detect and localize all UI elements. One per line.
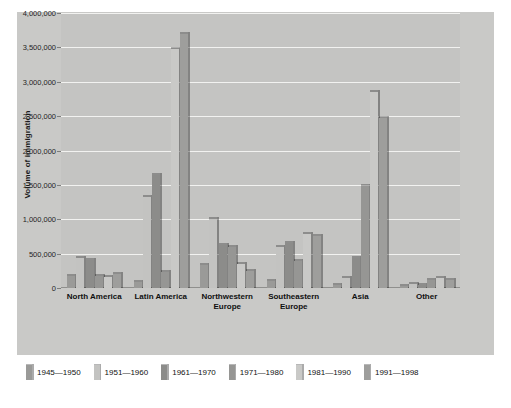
bar[interactable] [246,271,254,288]
bar-top-face [246,269,254,271]
bar-top-face [209,217,217,219]
bar[interactable] [219,245,227,288]
bar-slot [228,247,236,288]
bar-slot [418,285,426,288]
category-label: Northwestern Europe [194,292,260,312]
bar[interactable] [294,261,302,289]
bar-slot [379,118,387,289]
bar-slot [76,258,84,288]
legend-swatch [364,365,370,380]
bar[interactable] [67,276,75,288]
bar[interactable] [379,118,387,289]
bar[interactable] [446,280,454,288]
bar-slot [200,265,208,288]
legend-swatch [296,365,302,380]
bar[interactable] [237,264,245,288]
bar[interactable] [143,197,151,288]
legend-item[interactable]: 1971—1980 [229,365,284,380]
bar-slot [209,219,217,288]
legend-item[interactable]: 1951—1960 [94,365,149,380]
bar[interactable] [409,284,417,288]
bar-top-face [237,262,245,264]
bar-slot [409,284,417,288]
legend-swatch-side-face [235,364,237,381]
bar-side-face [387,116,389,289]
bar-slot [446,280,454,288]
category-label: North America [61,292,127,312]
bar-group [61,13,127,288]
legend-label: 1961—1970 [172,368,216,377]
bar-slot [361,186,369,288]
bar[interactable] [95,276,103,288]
bar[interactable] [228,247,236,288]
bar[interactable] [352,258,360,288]
y-axis-tick-label: 3,000,000 [0,77,56,86]
bar-slot [134,282,142,288]
bar-top-face [228,245,236,247]
bar-side-face [188,32,190,288]
bar[interactable] [418,285,426,288]
bar-slot [237,264,245,288]
bar[interactable] [104,277,112,288]
legend-swatch [229,365,235,380]
bar[interactable] [427,280,435,288]
bar[interactable] [209,219,217,288]
bar[interactable] [276,247,284,288]
bar-top-face [152,173,160,175]
bar[interactable] [313,236,321,288]
bar-slot [246,271,254,288]
bar[interactable] [113,274,121,288]
bar[interactable] [161,272,169,288]
bar-top-face [352,256,360,258]
bar[interactable] [200,265,208,288]
bar[interactable] [436,278,444,288]
bar[interactable] [171,49,179,288]
bar[interactable] [342,278,350,288]
bar-top-face [342,276,350,278]
bar[interactable] [303,234,311,288]
legend-swatch [26,365,32,380]
legend-label: 1951—1960 [105,368,149,377]
bar-slot [180,34,188,288]
legend-item[interactable]: 1981—1990 [296,365,351,380]
bar[interactable] [180,34,188,288]
bar-slot [276,247,284,288]
bar-side-face [121,272,123,288]
category-label: Other [393,292,459,312]
bar-top-face [446,278,454,280]
legend-swatch-side-face [167,364,169,381]
bar[interactable] [361,186,369,288]
bar[interactable] [400,286,408,288]
bar[interactable] [134,282,142,288]
bar[interactable] [370,92,378,288]
bar-top-face [418,283,426,285]
bar-slot [86,260,94,288]
bar[interactable] [76,258,84,288]
legend-label: 1981—1990 [307,368,351,377]
y-axis-tick-label: 1,000,000 [0,215,56,224]
bar[interactable] [152,175,160,288]
bar[interactable] [333,285,341,288]
legend-item[interactable]: 1991—1998 [364,365,419,380]
legend-item[interactable]: 1945—1950 [26,365,81,380]
bar[interactable] [285,243,293,288]
y-axis-tick-label: 4,000,000 [0,9,56,18]
bar-group [127,13,193,288]
bar-top-face [313,234,321,236]
legend-item[interactable]: 1961—1970 [161,365,216,380]
bar-top-face [267,279,275,281]
bar-top-face [400,284,408,286]
bar-slot [342,278,350,288]
legend-swatch [94,365,100,380]
bar-slot [143,197,151,288]
bar[interactable] [86,260,94,288]
legend-label: 1945—1950 [37,368,81,377]
legend-label: 1991—1998 [375,368,419,377]
bar-slot [333,285,341,288]
bar-slot [400,286,408,288]
bar[interactable] [267,281,275,288]
bar-top-face [143,195,151,197]
bar-slot [219,245,227,288]
bar-top-face [67,274,75,276]
bar-slot [303,234,311,288]
